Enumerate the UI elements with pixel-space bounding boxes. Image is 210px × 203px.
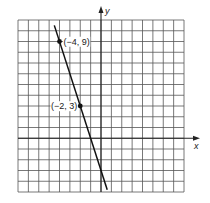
data-point xyxy=(78,104,83,109)
y-axis-label: y xyxy=(104,6,110,16)
x-axis-arrow xyxy=(193,136,200,141)
x-axis-label: x xyxy=(193,141,199,151)
y-axis-arrow xyxy=(99,6,104,13)
data-point xyxy=(57,39,62,44)
coordinate-plane: x y (−4, 9)(−2, 3) xyxy=(0,0,210,203)
point-label: (−4, 9) xyxy=(64,37,90,47)
point-label: (−2, 3) xyxy=(51,101,77,111)
